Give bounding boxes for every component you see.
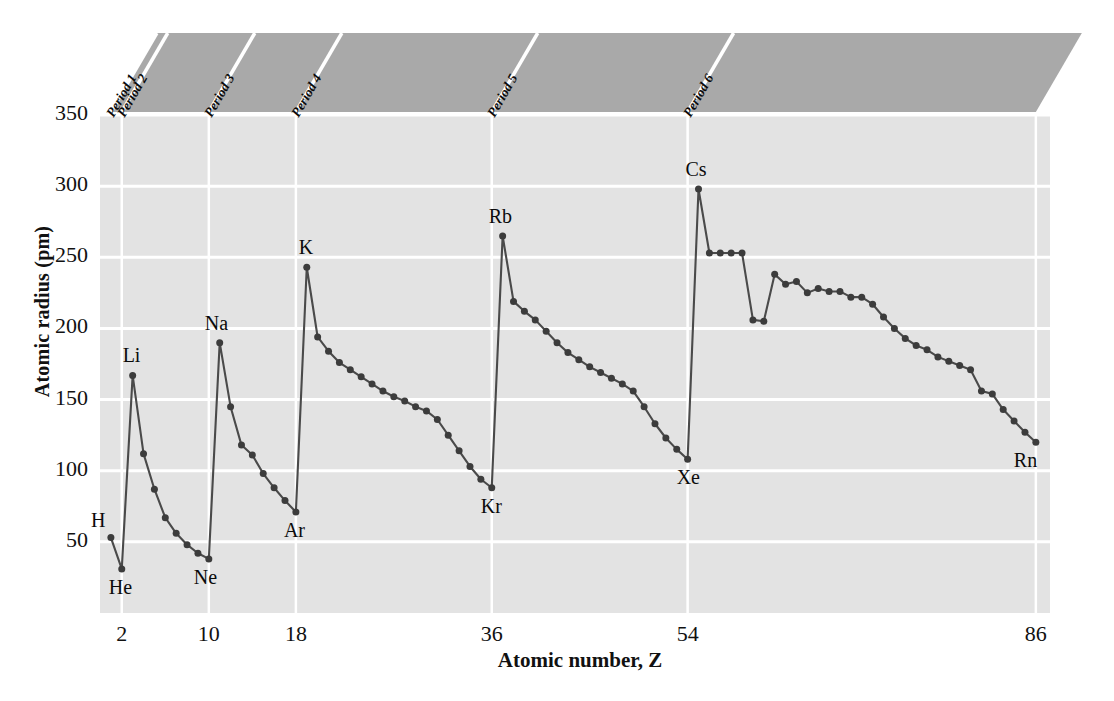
- data-point: [510, 298, 517, 305]
- data-point: [445, 432, 452, 439]
- atomic-radius-chart: [0, 0, 1114, 701]
- data-point: [662, 434, 669, 441]
- data-point: [401, 397, 408, 404]
- data-point: [673, 446, 680, 453]
- data-point: [1011, 417, 1018, 424]
- data-point: [151, 486, 158, 493]
- y-tick-label: 100: [28, 456, 88, 482]
- data-point: [434, 416, 441, 423]
- data-point: [826, 288, 833, 295]
- data-point: [608, 375, 615, 382]
- data-point: [891, 325, 898, 332]
- data-point: [945, 358, 952, 365]
- data-point: [804, 289, 811, 296]
- data-point: [216, 339, 223, 346]
- y-tick-label: 250: [28, 242, 88, 268]
- data-point: [793, 278, 800, 285]
- y-tick-label: 50: [28, 527, 88, 553]
- data-point: [815, 285, 822, 292]
- data-point: [739, 250, 746, 257]
- data-point: [880, 314, 887, 321]
- data-point: [532, 316, 539, 323]
- data-point: [249, 452, 256, 459]
- element-label-rb: Rb: [489, 205, 512, 228]
- element-label-kr: Kr: [481, 495, 502, 518]
- data-point: [336, 359, 343, 366]
- data-point: [728, 250, 735, 257]
- data-point: [260, 470, 267, 477]
- x-tick-label: 2: [92, 621, 152, 647]
- element-label-xe: Xe: [677, 466, 700, 489]
- data-point: [695, 185, 702, 192]
- data-point: [641, 403, 648, 410]
- data-point: [869, 301, 876, 308]
- data-point: [292, 508, 299, 515]
- data-point: [466, 463, 473, 470]
- data-point: [477, 476, 484, 483]
- data-point: [717, 250, 724, 257]
- data-point: [956, 362, 963, 369]
- data-point: [564, 349, 571, 356]
- data-point: [847, 294, 854, 301]
- x-tick-label: 10: [179, 621, 239, 647]
- y-tick-label: 300: [28, 171, 88, 197]
- data-point: [858, 294, 865, 301]
- plot-area: [100, 115, 1050, 613]
- data-point: [271, 484, 278, 491]
- element-label-k: K: [299, 236, 313, 259]
- data-point: [989, 390, 996, 397]
- period-band-fill: [111, 33, 1082, 112]
- data-point: [325, 348, 332, 355]
- data-point: [978, 388, 985, 395]
- data-point: [118, 565, 125, 572]
- data-point: [173, 530, 180, 537]
- data-point: [1032, 439, 1039, 446]
- data-point: [347, 366, 354, 373]
- element-label-cs: Cs: [686, 158, 707, 181]
- data-point: [390, 393, 397, 400]
- x-tick-label: 86: [1006, 621, 1066, 647]
- data-point: [423, 407, 430, 414]
- data-point: [554, 339, 561, 346]
- data-point: [782, 281, 789, 288]
- data-point: [412, 403, 419, 410]
- data-point: [684, 456, 691, 463]
- data-point: [314, 333, 321, 340]
- data-point: [749, 316, 756, 323]
- data-point: [303, 264, 310, 271]
- y-axis-title: Atomic radius (pm): [31, 152, 54, 472]
- data-point: [140, 450, 147, 457]
- data-point: [597, 369, 604, 376]
- data-point: [379, 388, 386, 395]
- data-point: [358, 373, 365, 380]
- element-label-rn: Rn: [1014, 449, 1037, 472]
- data-point: [521, 308, 528, 315]
- x-axis-title: Atomic number, Z: [300, 648, 860, 673]
- data-point: [543, 328, 550, 335]
- element-label-ne: Ne: [194, 566, 217, 589]
- data-point: [205, 555, 212, 562]
- data-point: [586, 363, 593, 370]
- element-label-ar: Ar: [284, 519, 305, 542]
- data-point: [129, 372, 136, 379]
- data-point: [184, 541, 191, 548]
- y-tick-label: 150: [28, 385, 88, 411]
- element-label-he: He: [109, 576, 132, 599]
- data-point: [281, 497, 288, 504]
- data-point: [706, 250, 713, 257]
- data-point: [967, 366, 974, 373]
- data-point: [238, 442, 245, 449]
- y-tick-label: 200: [28, 313, 88, 339]
- period-band-strip: [111, 33, 1082, 112]
- atomic-radius-figure: Atomic radius (pm) Atomic number, Z 5010…: [0, 0, 1114, 701]
- data-point: [107, 534, 114, 541]
- x-tick-label: 36: [462, 621, 522, 647]
- data-point: [630, 388, 637, 395]
- data-point: [913, 342, 920, 349]
- data-point: [499, 232, 506, 239]
- data-point: [194, 550, 201, 557]
- data-point: [488, 484, 495, 491]
- data-point: [771, 271, 778, 278]
- data-point: [902, 335, 909, 342]
- data-point: [1021, 429, 1028, 436]
